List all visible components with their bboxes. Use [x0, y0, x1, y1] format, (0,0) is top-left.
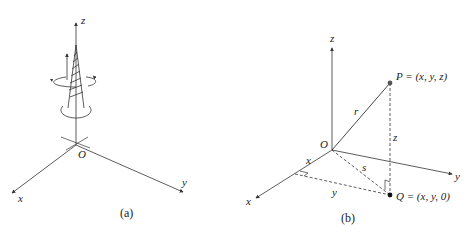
- caption-a: (a): [120, 206, 133, 220]
- point-p-label: P = (x, y, z): [395, 70, 448, 83]
- x-axis-b: [256, 150, 332, 198]
- origin-label-b: O: [320, 138, 328, 150]
- z-axis-label-b: z: [329, 32, 335, 44]
- y-axis-label-b: y: [454, 170, 460, 182]
- panel-b: z x y O P = (x, y, z) Q = (x, y, 0) r z …: [245, 32, 460, 225]
- right-angle-marker-q: [385, 180, 390, 190]
- point-p-text: P = (x, y, z): [395, 70, 448, 83]
- y-axis-a: [76, 145, 183, 192]
- z-axis-label-a: z: [80, 14, 86, 26]
- x-axis-a: [12, 145, 76, 193]
- x-segment-label: x: [305, 154, 311, 166]
- y-axis-b: [332, 150, 452, 174]
- s-label: s: [362, 161, 366, 173]
- x-axis-label-a: x: [17, 192, 23, 204]
- point-p: [388, 81, 393, 86]
- segment-y-dashed: [295, 174, 390, 195]
- vortex-cone-icon: [50, 45, 96, 118]
- point-q-label: Q = (x, y, 0): [396, 190, 450, 203]
- y-axis-label-a: y: [181, 176, 187, 188]
- point-q-text: Q = (x, y, 0): [396, 190, 450, 203]
- panel-a: z x y O (a): [12, 14, 187, 220]
- x-axis-label-b: x: [245, 195, 251, 207]
- segment-r: [332, 83, 390, 150]
- origin-label-a: O: [78, 148, 86, 160]
- y-segment-label: y: [331, 186, 337, 198]
- z-segment-label: z: [392, 131, 398, 143]
- r-label: r: [354, 105, 359, 117]
- figure-canvas: z x y O (a) z x y O P = (x, y, z) Q = (x…: [0, 0, 466, 232]
- caption-b: (b): [341, 211, 355, 225]
- point-q: [388, 193, 393, 198]
